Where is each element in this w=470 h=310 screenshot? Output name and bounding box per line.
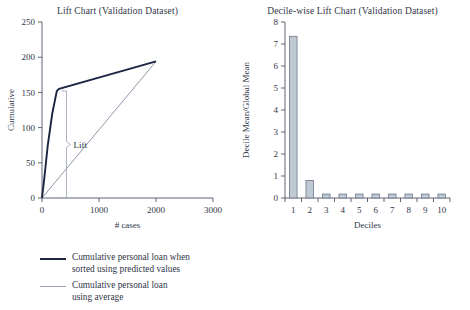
- y-tick-label: 7: [274, 39, 279, 49]
- bar-decile-8: [405, 194, 413, 198]
- bar-decile-2: [306, 180, 314, 198]
- legend-swatch-predicted-line-icon: [40, 258, 66, 260]
- x-tick-label: 3: [324, 205, 329, 215]
- y-tick-label: 8: [274, 17, 279, 27]
- bar-decile-10: [438, 194, 446, 198]
- x-tick-label: 8: [407, 205, 412, 215]
- legend-label-average: Cumulative personal loan using average: [72, 280, 168, 303]
- y-tick-label: 0: [274, 193, 279, 203]
- x-tick-label: 7: [390, 205, 395, 215]
- y-tick-label: 4: [274, 105, 279, 115]
- bar-decile-6: [372, 194, 380, 198]
- x-tick-label: 1000: [90, 205, 109, 215]
- y-tick-label: 150: [22, 88, 36, 98]
- legend-item-average: Cumulative personal loan using average: [40, 280, 255, 303]
- x-tick-label: 0: [40, 205, 45, 215]
- x-tick-label: 10: [437, 205, 447, 215]
- series-line-average: [42, 61, 156, 198]
- x-tick-label: 6: [374, 205, 379, 215]
- x-tick-label: 4: [341, 205, 346, 215]
- bar-decile-4: [339, 194, 347, 198]
- x-tick-label: 2: [308, 205, 313, 215]
- y-tick-label: 2: [274, 149, 279, 159]
- chart-legend: Cumulative personal loan when sorted usi…: [40, 252, 255, 308]
- x-tick-label: 5: [357, 205, 362, 215]
- bar-decile-9: [421, 194, 429, 198]
- y-tick-label: 100: [22, 123, 36, 133]
- x-tick-label: 3000: [204, 205, 223, 215]
- x-axis-title: # cases: [115, 220, 141, 230]
- decile-lift-chart-plot: 01234567812345678910DecilesDecile Mean/G…: [235, 0, 470, 245]
- x-tick-label: 9: [423, 205, 428, 215]
- y-axis-title: Cumulative: [6, 89, 16, 131]
- bar-decile-7: [388, 194, 396, 198]
- x-axis-title: Deciles: [354, 220, 381, 230]
- y-tick-label: 200: [22, 52, 36, 62]
- bar-decile-5: [355, 194, 363, 198]
- lift-chart-plot: 0501001502002500100020003000# casesCumul…: [0, 0, 235, 245]
- legend-swatch-average-line-icon: [40, 286, 66, 287]
- y-axis-title: Decile Mean/Global Mean: [241, 62, 251, 158]
- y-tick-label: 6: [274, 61, 279, 71]
- legend-label-predicted: Cumulative personal loan when sorted usi…: [72, 252, 190, 275]
- y-tick-label: 250: [22, 17, 36, 27]
- legend-item-predicted: Cumulative personal loan when sorted usi…: [40, 252, 255, 275]
- y-tick-label: 50: [26, 158, 36, 168]
- bar-decile-3: [322, 194, 330, 198]
- y-tick-label: 1: [274, 171, 279, 181]
- decile-lift-chart-panel: Decile-wise Lift Chart (Validation Datas…: [235, 0, 470, 310]
- lift-annotation-label: Lift: [74, 140, 88, 150]
- bar-decile-1: [289, 36, 297, 198]
- x-tick-label: 2000: [147, 205, 166, 215]
- lift-brace-icon: [62, 91, 71, 198]
- y-tick-label: 0: [31, 193, 36, 203]
- y-tick-label: 5: [274, 83, 279, 93]
- x-tick-label: 1: [291, 205, 296, 215]
- y-tick-label: 3: [274, 127, 279, 137]
